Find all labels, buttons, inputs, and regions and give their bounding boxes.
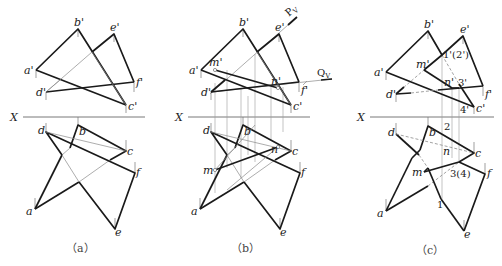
label-b: b xyxy=(244,125,251,138)
label-point-1-2-prime: 1'(2') xyxy=(443,49,469,60)
label-point-2: 2 xyxy=(444,121,450,132)
label-e-prime: e' xyxy=(460,23,470,36)
label-e-prime: e' xyxy=(275,21,285,34)
label-n: n xyxy=(443,145,450,158)
label-a: a xyxy=(377,207,384,220)
label-a: a xyxy=(26,205,33,218)
label-e-prime: e' xyxy=(110,21,120,34)
label-b-prime: b' xyxy=(74,16,84,29)
label-f-prime: f' xyxy=(135,76,143,89)
label-plane-p: PV xyxy=(283,2,301,20)
label-point-4-prime: 4' xyxy=(460,104,469,115)
label-f-prime: f' xyxy=(300,84,308,97)
label-e: e xyxy=(280,226,287,239)
label-a: a xyxy=(191,205,198,218)
label-d: d xyxy=(38,124,45,137)
label-c-prime: c' xyxy=(293,100,302,113)
label-point-1: 1 xyxy=(437,199,443,210)
label-b: b xyxy=(429,126,436,139)
x-axis-label: X xyxy=(9,111,19,124)
label-f-prime: f' xyxy=(484,88,492,101)
label-m-prime: m' xyxy=(416,58,429,71)
label-e: e xyxy=(464,228,471,241)
front-triangle-def xyxy=(46,34,134,92)
label-a-prime: a' xyxy=(189,64,199,77)
front-triangle-abc xyxy=(36,29,126,105)
caption-b: （b） xyxy=(231,242,260,255)
label-b-prime: b' xyxy=(239,16,249,29)
caption-c: （c） xyxy=(416,244,444,257)
label-d-prime: d' xyxy=(36,86,46,99)
label-plane-q: QV xyxy=(317,67,331,80)
projection-diagram: X a' b' c' d' e' f' xyxy=(0,0,502,266)
label-a-prime: a' xyxy=(374,66,384,79)
label-c-prime: c' xyxy=(128,100,137,113)
x-axis-label: X xyxy=(356,111,366,124)
label-m-prime: m' xyxy=(209,56,222,69)
label-c: c xyxy=(127,145,133,158)
label-n-prime: n' xyxy=(271,75,281,88)
label-n: n xyxy=(271,143,278,156)
panel-c: X a' b' c' d' e' f' m' n' 1'(2') xyxy=(356,18,494,257)
caption-a: （a） xyxy=(66,242,95,255)
label-e: e xyxy=(115,226,122,239)
panel-b: X xyxy=(174,2,332,255)
label-d: d xyxy=(388,126,395,139)
label-m: m xyxy=(412,166,422,179)
label-f: f xyxy=(486,167,493,180)
label-b-prime: b' xyxy=(424,18,434,31)
label-f: f xyxy=(300,166,307,179)
label-d: d xyxy=(203,124,210,137)
label-c: c xyxy=(475,147,481,160)
label-m: m xyxy=(203,164,213,177)
label-c-prime: c' xyxy=(476,102,485,115)
label-point-3-4: 3(4) xyxy=(450,168,471,179)
label-f: f xyxy=(135,166,142,179)
label-c: c xyxy=(292,145,298,158)
label-d-prime: d' xyxy=(386,88,396,101)
panel-a: X a' b' c' d' e' f' xyxy=(9,16,145,255)
top-triangle-def xyxy=(46,132,135,229)
label-a-prime: a' xyxy=(24,64,34,77)
label-b: b xyxy=(79,125,86,138)
label-point-3-prime: 3' xyxy=(458,77,467,88)
label-n-prime: n' xyxy=(444,76,454,89)
label-d-prime: d' xyxy=(201,86,211,99)
x-axis-label: X xyxy=(174,111,184,124)
